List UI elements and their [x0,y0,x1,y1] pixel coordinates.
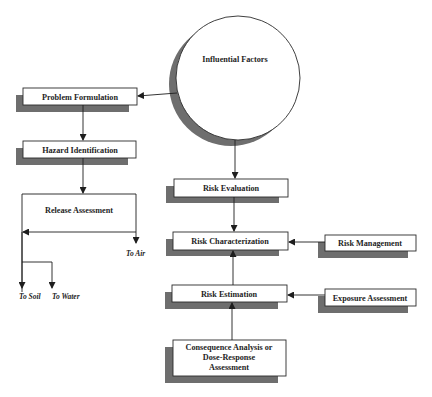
water-branch [22,262,52,288]
risk-estimation-node: Risk Estimation [165,285,287,309]
release-assessment-label: Release Assessment [45,206,113,215]
consequence-analysis-node: Consequence Analysis or Dose-Response As… [165,340,286,383]
to-air-label: To Air [126,249,145,258]
to-soil-label: To Soil [19,292,42,301]
influential-factors-label: Influential Factors [202,55,267,64]
hazard-identification-label: Hazard Identification [42,146,118,155]
risk-management-label: Risk Management [338,239,402,248]
hazard-identification-node: Hazard Identification [16,141,136,165]
consequence-label-line3: Assessment [209,363,249,372]
problem-formulation-node: Problem Formulation [16,88,137,112]
consequence-label-line2: Dose-Response [203,353,256,362]
problem-formulation-label: Problem Formulation [42,93,118,102]
to-water-label: To Water [52,292,80,301]
risk-characterization-label: Risk Characterization [191,237,269,246]
consequence-label-line1: Consequence Analysis or [186,343,273,352]
release-assessment-node: Release Assessment To Air To Soil To Wat… [19,194,145,301]
risk-evaluation-label: Risk Evaluation [203,184,260,193]
risk-characterization-node: Risk Characterization [166,232,288,256]
risk-estimation-label: Risk Estimation [201,290,258,299]
circle-body [176,16,300,140]
risk-management-node: Risk Management [318,235,416,258]
risk-assessment-diagram: Influential Factors Problem Formulation … [0,0,432,397]
exposure-assessment-label: Exposure Assessment [333,294,408,303]
risk-evaluation-node: Risk Evaluation [166,179,288,203]
influential-factors-node: Influential Factors [169,16,300,146]
exposure-assessment-node: Exposure Assessment [318,289,416,313]
